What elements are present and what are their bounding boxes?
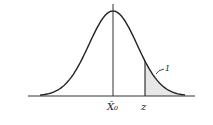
z-label: z (140, 101, 147, 112)
normal-curve-diagram: 1 X̄₀ z (0, 0, 213, 125)
tail-label: 1 (165, 64, 170, 73)
tail-label-leader (156, 69, 164, 74)
mean-label: X̄₀ (106, 101, 118, 112)
